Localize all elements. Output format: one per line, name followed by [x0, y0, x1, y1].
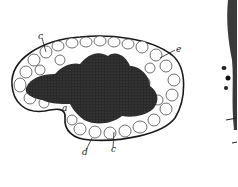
label-a-mid: a	[62, 104, 67, 113]
label-c-bottom: c	[111, 145, 116, 154]
adjacent-figure-fragment	[222, 0, 238, 143]
label-e-right: e	[176, 45, 181, 54]
label-c-top: c	[38, 32, 43, 41]
kidney-section-drawing	[0, 0, 237, 187]
label-d-bottom: d	[82, 148, 88, 157]
illustration: c e a d c	[0, 0, 237, 187]
